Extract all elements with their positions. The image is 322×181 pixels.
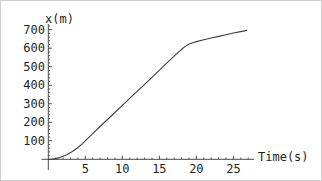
tick-labels-group: 510152025100200300400500600700 <box>23 23 240 176</box>
y-tick-label: 700 <box>23 23 45 37</box>
position-curve <box>48 30 246 159</box>
x-tick-label: 20 <box>189 162 203 176</box>
ticks-group <box>48 26 248 159</box>
y-axis-label: x(m) <box>45 12 74 26</box>
y-tick-label: 100 <box>23 134 45 148</box>
axes-group <box>42 24 255 170</box>
x-tick-label: 15 <box>152 162 166 176</box>
x-tick-label: 10 <box>115 162 129 176</box>
x-axis-label: Time(s) <box>258 150 309 164</box>
x-tick-label: 25 <box>226 162 240 176</box>
plot-canvas: 510152025100200300400500600700 x(m) Time… <box>0 0 322 181</box>
y-tick-label: 300 <box>23 97 45 111</box>
y-tick-label: 200 <box>23 115 45 129</box>
x-tick-label: 5 <box>82 162 89 176</box>
y-tick-label: 600 <box>23 41 45 55</box>
position-time-chart: 510152025100200300400500600700 x(m) Time… <box>1 1 322 181</box>
y-tick-label: 400 <box>23 78 45 92</box>
y-tick-label: 500 <box>23 60 45 74</box>
